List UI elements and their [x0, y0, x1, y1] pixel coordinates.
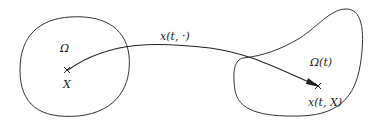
point-xt-label: x(t, X): [308, 96, 342, 109]
point-x-marker-icon: [64, 67, 70, 73]
reference-domain-boundary: [20, 17, 129, 117]
reference-domain-label: Ω: [59, 42, 69, 55]
current-domain-label: Ω(t): [309, 56, 332, 69]
mapping-curve: [68, 44, 318, 86]
point-x-label: X: [62, 78, 72, 91]
flow-map-diagram: Ω X x(t, ·) Ω(t) x(t, X): [0, 0, 374, 125]
current-domain-boundary: [234, 9, 363, 116]
mapping-label: x(t, ·): [160, 30, 190, 43]
